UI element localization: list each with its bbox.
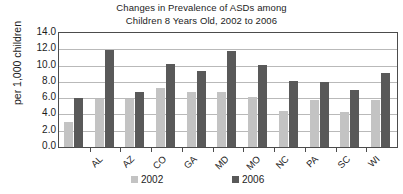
legend-entry-2002[interactable]: 2002 <box>131 174 163 185</box>
bar-sc-2006 <box>320 82 329 147</box>
y-axis-tick-label: 10.0 <box>26 60 56 70</box>
y-axis-tick-label: 14.0 <box>26 27 56 37</box>
x-axis-label-ga: GA <box>182 154 199 171</box>
x-axis-tick <box>336 148 337 152</box>
x-axis-label-sc: SC <box>336 154 352 170</box>
x-axis-tick <box>213 148 214 152</box>
bar-average-2002 <box>371 100 380 147</box>
y-axis-tick-label: 6.0 <box>26 92 56 102</box>
bar-ga-2006 <box>166 64 175 147</box>
y-axis-tick-label: 12.0 <box>26 43 56 53</box>
bar-group <box>305 33 336 147</box>
bar-ga-2002 <box>156 88 165 147</box>
x-axis-tick <box>182 148 183 152</box>
y-axis-tick-label: 4.0 <box>26 108 56 118</box>
legend-swatch-icon <box>131 176 138 183</box>
bar-mo-2002 <box>217 92 226 147</box>
x-axis-tick <box>243 148 244 152</box>
chart-title-line-2: Children 8 Years Old, 2002 to 2006 <box>0 15 403 28</box>
bar-group <box>336 33 367 147</box>
bar-nc-2006 <box>258 65 267 147</box>
legend-label: 2002 <box>141 174 163 185</box>
bar-mo-2006 <box>227 51 236 147</box>
chart-legend: 20022006 <box>0 174 403 188</box>
x-axis-tick <box>120 148 121 152</box>
bar-sc-2002 <box>310 100 319 147</box>
bar-pa-2002 <box>279 111 288 147</box>
bar-az-2002 <box>95 99 104 147</box>
bar-md-2002 <box>187 92 196 147</box>
x-axis-label-pa: PA <box>305 154 321 170</box>
bar-nc-2002 <box>248 97 257 147</box>
x-axis-tick <box>151 148 152 152</box>
bar-az-2006 <box>105 50 114 147</box>
bar-wi-2002 <box>340 112 349 147</box>
bar-group <box>243 33 274 147</box>
bar-average-2006 <box>381 73 390 147</box>
x-axis-label-md: MD <box>213 154 231 172</box>
x-axis-label-wi: WI <box>366 154 381 169</box>
bar-group <box>213 33 244 147</box>
bar-group <box>366 33 397 147</box>
bar-group <box>182 33 213 147</box>
y-axis-tick-label: 8.0 <box>26 76 56 86</box>
x-axis-label-az: AZ <box>121 154 137 170</box>
bars-layer <box>59 33 397 147</box>
legend-swatch-icon <box>232 176 239 183</box>
y-axis-title: per 1,000 children <box>11 15 23 111</box>
bar-al-2002 <box>64 122 73 147</box>
x-axis-tick <box>274 148 275 152</box>
bar-group <box>151 33 182 147</box>
bar-group <box>120 33 151 147</box>
bar-pa-2006 <box>289 81 298 147</box>
chart-figure: Changes in Prevalence of ASDs among Chil… <box>0 0 403 194</box>
bar-md-2006 <box>197 71 206 147</box>
x-axis-tick <box>90 148 91 152</box>
x-axis-label-al: AL <box>89 154 104 169</box>
chart-title: Changes in Prevalence of ASDs among Chil… <box>0 2 403 27</box>
x-axis-label-co: CO <box>151 154 168 171</box>
bar-group <box>90 33 121 147</box>
y-axis-tick-labels: 14.012.010.08.06.04.02.00.0 <box>26 32 56 148</box>
x-axis-tick <box>305 148 306 152</box>
bar-co-2006 <box>135 92 144 147</box>
chart-title-line-1: Changes in Prevalence of ASDs among <box>0 2 403 15</box>
y-axis-tick-label: 2.0 <box>26 125 56 135</box>
x-axis-tick <box>366 148 367 152</box>
legend-entry-2006[interactable]: 2006 <box>232 174 264 185</box>
x-axis-label-mo: MO <box>244 154 262 172</box>
bar-al-2006 <box>74 98 83 147</box>
bar-group <box>59 33 90 147</box>
legend-label: 2006 <box>242 174 264 185</box>
bar-group <box>274 33 305 147</box>
bar-wi-2006 <box>350 90 359 147</box>
x-axis-label-nc: NC <box>274 154 291 171</box>
bar-co-2002 <box>125 99 134 147</box>
